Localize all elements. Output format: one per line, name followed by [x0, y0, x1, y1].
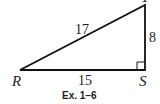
vertex-label-T: T	[141, 0, 151, 5]
right-angle-marker	[137, 62, 145, 70]
triangle-RST	[20, 5, 145, 70]
right-triangle-diagram: 17 8 15 R S T Ex. 1–6	[0, 0, 160, 104]
side-label-RS: 15	[78, 73, 92, 88]
vertex-label-R: R	[11, 73, 21, 89]
side-label-RT: 17	[75, 22, 89, 37]
side-label-ST: 8	[149, 30, 156, 45]
figure-caption: Ex. 1–6	[62, 90, 97, 101]
vertex-label-S: S	[139, 73, 147, 89]
